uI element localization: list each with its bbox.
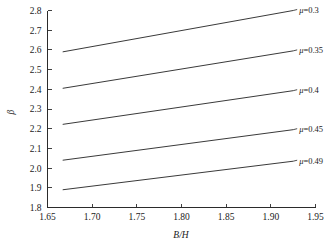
y-tick-label: 2.1 bbox=[30, 144, 42, 154]
y-axis-title: β bbox=[6, 109, 16, 115]
y-tick-label: 2.7 bbox=[30, 26, 42, 36]
series-label: μ=0.45 bbox=[298, 124, 323, 134]
x-tick-label: 1.80 bbox=[173, 212, 190, 222]
y-tick-label: 2.2 bbox=[30, 124, 42, 134]
x-tick-label: 1.70 bbox=[84, 212, 101, 222]
series-label: μ=0.49 bbox=[298, 156, 323, 166]
x-tick-label: 1.90 bbox=[263, 212, 280, 222]
x-tick-label: 1.95 bbox=[307, 212, 324, 222]
y-tick-label: 2.8 bbox=[30, 6, 42, 16]
y-tick-label: 2.6 bbox=[30, 45, 42, 55]
y-tick-label: 2.5 bbox=[30, 65, 42, 75]
y-tick-label: 2.3 bbox=[30, 104, 42, 114]
series-label: μ=0.35 bbox=[298, 45, 323, 55]
series-label-value: =0.4 bbox=[303, 85, 319, 95]
series-label-value: =0.3 bbox=[303, 5, 318, 15]
chart-figure: 1.81.92.02.12.22.32.42.52.62.72.8 1.651.… bbox=[0, 0, 331, 246]
series-label-value: =0.45 bbox=[303, 124, 323, 134]
series-label-value: =0.35 bbox=[303, 45, 323, 55]
series-label-value: =0.49 bbox=[303, 156, 323, 166]
x-tick-label: 1.75 bbox=[129, 212, 146, 222]
y-tick-label: 1.9 bbox=[30, 183, 42, 193]
series-label: μ=0.3 bbox=[298, 5, 319, 15]
x-tick-label: 1.65 bbox=[39, 212, 56, 222]
x-axis-title: B/H bbox=[173, 230, 189, 240]
plot-background bbox=[0, 0, 331, 246]
x-tick-label: 1.85 bbox=[218, 212, 235, 222]
y-tick-label: 2.0 bbox=[30, 164, 42, 174]
y-tick-label: 2.4 bbox=[30, 85, 42, 95]
chart-canvas: 1.81.92.02.12.22.32.42.52.62.72.8 1.651.… bbox=[0, 0, 331, 246]
series-label: μ=0.4 bbox=[298, 85, 319, 95]
